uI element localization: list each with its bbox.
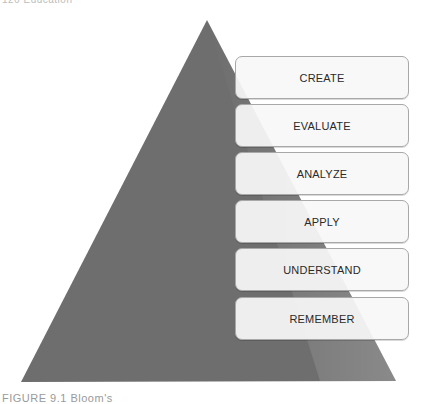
level-remember: REMEMBER bbox=[235, 297, 409, 340]
level-create: CREATE bbox=[235, 56, 409, 99]
level-evaluate: EVALUATE bbox=[235, 104, 409, 147]
figure-caption: FIGURE 9.1 Bloom's bbox=[2, 392, 113, 404]
level-label: CREATE bbox=[299, 72, 344, 84]
level-label: APPLY bbox=[304, 216, 340, 228]
level-label: REMEMBER bbox=[289, 313, 354, 325]
level-label: UNDERSTAND bbox=[283, 264, 361, 276]
level-understand: UNDERSTAND bbox=[235, 248, 409, 291]
level-apply: APPLY bbox=[235, 200, 409, 243]
level-analyze: ANALYZE bbox=[235, 152, 409, 195]
level-label: ANALYZE bbox=[297, 168, 348, 180]
level-label: EVALUATE bbox=[293, 120, 350, 132]
